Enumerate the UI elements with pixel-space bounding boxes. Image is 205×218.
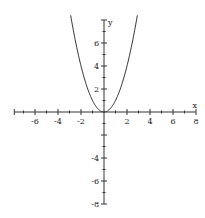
y-tick-label: -4 [91,154,99,163]
y-tick-label: 6 [94,39,99,48]
y-axis-label: y [107,18,113,27]
y-tick-label: 2 [94,85,99,94]
y-tick-label: 4 [94,62,99,71]
x-tick-label: -4 [54,117,62,126]
x-tick-label: -2 [77,117,85,126]
x-tick-label: -6 [31,117,39,126]
x-tick-label: 2 [124,117,129,126]
y-tick-label: -8 [91,200,99,209]
y-tick-label: -6 [91,177,99,186]
x-tick-label: 6 [170,117,175,126]
parabola-chart: -6-4-22468642-4-6-8 x y [0,0,205,218]
tick-labels: -6-4-22468642-4-6-8 [31,39,198,209]
x-tick-label: 8 [193,117,198,126]
x-tick-label: 4 [147,117,152,126]
x-axis-label: x [193,101,198,110]
